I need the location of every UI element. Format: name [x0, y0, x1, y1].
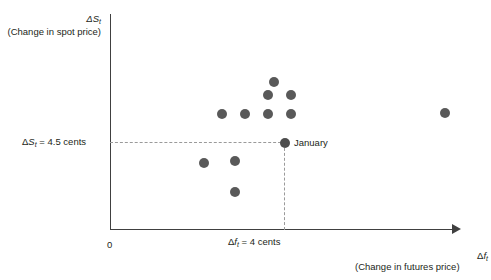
origin-label: 0 — [107, 239, 112, 251]
x-axis-description: (Change in futures price) — [355, 261, 460, 273]
y-axis-description: (Change in spot price) — [8, 26, 101, 37]
data-point — [263, 109, 273, 119]
data-point — [286, 90, 296, 100]
data-point — [286, 109, 296, 119]
x-reference-value: 4 — [250, 236, 255, 247]
vertical-reference-dashed-line — [284, 143, 285, 230]
data-point — [263, 90, 273, 100]
y-axis-line — [110, 14, 111, 230]
horizontal-reference-dashed-line — [110, 142, 286, 143]
scatter-plot-figure: ΔSt (Change in spot price) ΔSt = 4.5 cen… — [0, 0, 491, 280]
y-reference-value: 4.5 — [47, 136, 60, 147]
x-axis-line — [110, 229, 455, 230]
january-annotation-label: January — [294, 137, 328, 149]
data-point — [440, 108, 450, 118]
january-data-point — [280, 138, 290, 148]
data-point — [240, 109, 250, 119]
y-axis-symbol: ΔSt — [86, 13, 101, 24]
data-point — [230, 156, 240, 166]
data-point — [230, 187, 240, 197]
y-axis-title: ΔSt (Change in spot price) — [8, 13, 101, 37]
data-point — [269, 77, 279, 87]
x-reference-tick-label: Δft = 4 cents — [228, 236, 280, 249]
data-point — [217, 109, 227, 119]
data-point — [199, 158, 209, 168]
y-reference-units: cents — [63, 136, 86, 147]
y-reference-tick-label: ΔSt = 4.5 cents — [22, 136, 86, 149]
x-axis-arrowhead — [452, 224, 461, 234]
x-reference-units: cents — [258, 236, 281, 247]
